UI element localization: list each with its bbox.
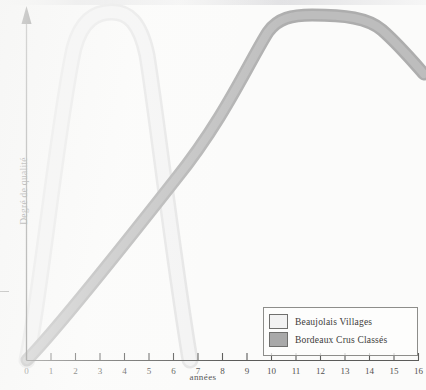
legend-item-beaujolais: Beaujolais Villages xyxy=(269,314,412,329)
x-axis-label-text: années xyxy=(190,372,217,382)
y-axis-label: Degré de qualité xyxy=(19,136,29,246)
legend-label-beaujolais: Beaujolais Villages xyxy=(295,317,372,327)
y-axis-arrowhead xyxy=(22,6,32,24)
legend-item-bordeaux: Bordeaux Crus Classés xyxy=(269,332,412,347)
legend-swatch-bordeaux xyxy=(269,332,288,347)
chart-legend: Beaujolais Villages Bordeaux Crus Classé… xyxy=(263,307,418,356)
legend-label-bordeaux: Bordeaux Crus Classés xyxy=(295,335,387,345)
legend-swatch-beaujolais xyxy=(269,314,288,329)
wine-quality-chart: Degré de qualité 0 1 2 3 4 5 6 7 8 9 10 … xyxy=(0,0,426,390)
page-edge-mark xyxy=(0,291,9,292)
x-axis-label: années xyxy=(0,372,426,382)
